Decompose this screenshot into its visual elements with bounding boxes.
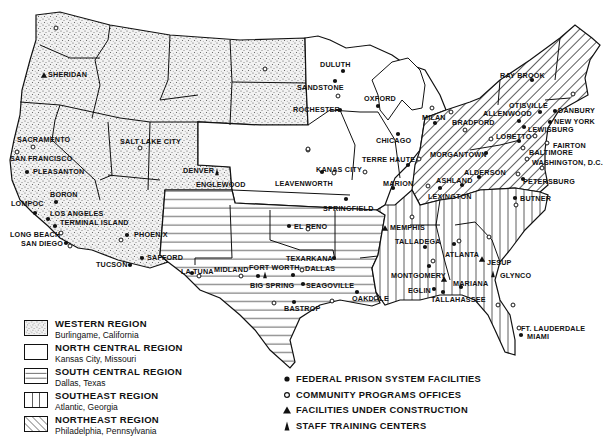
place-label: ENGLEWOOD [196,181,246,188]
place-label: TALLADEGA [395,238,441,245]
place-label: GLYNCO [500,272,531,279]
open-circle-icon [539,165,546,172]
triangle-icon [441,276,448,283]
open-circle-icon [488,136,495,143]
open-circle-icon [67,243,74,250]
horizontal-lines-swatch-icon [24,368,48,384]
open-circle-icon [462,127,469,134]
region-hq: Dallas, Texas [55,378,105,388]
region-name: NORTHEAST REGION [55,414,159,425]
place-label: DANBURY [558,107,595,114]
region-name: SOUTHEAST REGION [55,390,159,401]
place-label: LOS ANGELES [50,210,103,217]
filled-circle-icon [395,131,402,138]
open-circle-icon [196,273,203,280]
filled-circle-icon [189,270,196,277]
open-circle-icon [14,149,21,156]
open-circle-icon [448,109,455,116]
open-circle-icon [53,25,60,32]
filled-circle-icon [483,150,490,157]
region-hq: Atlantic, Georgia [55,402,118,412]
place-label: ALLENWOOD [483,110,532,117]
filled-circle-icon [354,289,361,296]
open-circle-icon [118,237,125,244]
open-circle-icon [425,183,432,190]
filled-circle-icon [432,120,439,127]
filled-circle-icon [331,255,338,262]
open-circle-icon [486,234,493,241]
open-circle-icon [513,202,520,209]
filled-circle-icon [537,109,544,116]
filled-circle-icon [282,374,292,384]
open-circle-icon [137,145,144,152]
place-label: TERMINAL ISLAND [60,219,129,226]
training-center-icon [262,272,269,279]
filled-circle-icon [319,169,326,176]
filled-circle-icon [337,107,344,114]
open-circle-icon [532,133,539,140]
place-label: LORETTO [496,133,532,140]
open-circle-icon [305,146,312,153]
place-label: LEAVENWORTH [275,180,333,187]
open-circle-icon [495,302,502,309]
filled-circle-icon [459,182,466,189]
filled-circle-icon [332,78,339,85]
place-label: LOMPOC [11,200,44,207]
open-circle-icon [238,273,245,280]
open-circle-icon [335,93,342,100]
place-label: BORON [50,191,78,198]
place-label: TALLAHASSEE [431,296,486,303]
training-center-icon [282,421,292,431]
place-label: ATLANTA [445,251,479,258]
filled-circle-icon [343,196,350,203]
filled-circle-icon [440,289,447,296]
place-label: CHICAGO [376,137,411,144]
symbol-label: COMMUNITY PROGRAMS OFFICES [296,390,461,400]
open-circle-icon [544,140,551,147]
filled-circle-icon [520,176,527,183]
filled-circle-icon [437,185,444,192]
place-label: LONG BEACH [10,231,60,238]
place-label: SALT LAKE CITY [120,138,181,145]
place-label: FORT WORTH [249,264,300,271]
training-center-icon [490,271,497,278]
filled-circle-icon [552,108,559,115]
open-circle-icon [510,302,517,309]
open-circle-icon [262,66,269,73]
place-label: BIG SPRING [250,282,294,289]
filled-circle-icon [127,262,134,269]
filled-circle-icon [340,68,347,75]
open-circle-icon [299,267,306,274]
open-circle-icon [58,230,65,237]
place-label: BASTROP [284,305,321,312]
filled-circle-icon [458,284,465,291]
place-label: SAN FRANCISCO [10,155,73,162]
blank-swatch-icon [24,344,48,360]
filled-circle-icon [390,185,397,192]
place-label: ASHLAND [436,177,473,184]
filled-circle-icon [291,299,298,306]
place-label: DENVER [183,167,214,174]
filled-circle-icon [375,103,382,110]
open-circle-icon [520,145,527,152]
filled-circle-icon [300,281,307,288]
place-label: PETERSBURG [523,178,575,185]
place-label: SANDSTONE [297,84,344,91]
diagonal-lines-swatch-icon [24,416,48,432]
filled-circle-icon [512,195,519,202]
region-name: NORTH CENTRAL REGION [55,342,183,353]
place-label: JESUP [487,259,512,266]
region-name: WESTERN REGION [55,318,147,329]
filled-circle-icon [422,244,429,251]
place-label: MONTGOMERY [391,272,446,279]
filled-circle-icon [286,223,293,230]
symbol-label: FEDERAL PRISON SYSTEM FACILITIES [296,374,481,384]
filled-circle-icon [45,216,52,223]
training-center-icon [214,169,221,176]
triangle-icon [282,405,292,415]
open-circle-icon [416,156,423,163]
place-label: MEMPHIS [390,224,425,231]
place-label: PHOENIX [134,231,168,238]
place-label: SEAGOVILLE [306,282,354,289]
filled-circle-icon [476,174,483,181]
